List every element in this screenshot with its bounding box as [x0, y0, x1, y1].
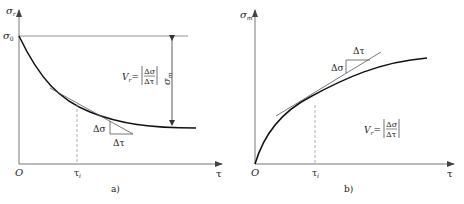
sigma0-label: σ0	[3, 30, 14, 42]
caption-b: b)	[344, 184, 353, 194]
delta-sigma-label-a: Δσ	[93, 124, 106, 134]
x-axis-label-a: τ	[216, 168, 222, 179]
svg-text:Δτ: Δτ	[144, 77, 155, 86]
diagram-canvas: σr σ0 O τi τ Δσ Δτ σm Vr= Δσ Δτ a) σm	[0, 0, 464, 204]
panel-a: σr σ0 O τi τ Δσ Δτ σm Vr= Δσ Δτ a)	[3, 5, 222, 194]
origin-label-a: O	[15, 167, 23, 178]
svg-text:Δτ: Δτ	[386, 130, 397, 139]
tangent-line-a	[50, 88, 133, 134]
delta-sigma-label-b: Δσ	[331, 63, 344, 73]
x-axis-label-b: τ	[447, 168, 453, 179]
rise-curve	[255, 58, 427, 164]
y-axis-label-a: σr	[6, 5, 17, 17]
velocity-formula-a: Vr= Δσ Δτ	[122, 66, 157, 86]
origin-label-b: O	[251, 167, 259, 178]
caption-a: a)	[111, 184, 120, 194]
delta-tau-label-a: Δτ	[113, 138, 124, 148]
velocity-formula-b: Vr= Δσ Δτ	[364, 119, 399, 139]
tau-i-label-b: τi	[312, 168, 319, 179]
svg-text:Δσ: Δσ	[144, 67, 156, 76]
sigma-m-label: σm	[161, 72, 173, 85]
y-axis-label-b: σm	[240, 9, 253, 21]
panel-b: σm O τi τ Δτ Δσ Vr= Δσ Δτ b)	[240, 9, 454, 194]
tangent-line-b	[276, 52, 381, 116]
svg-text:Vr=: Vr=	[364, 125, 381, 136]
svg-text:Δσ: Δσ	[386, 120, 398, 129]
delta-tau-label-b: Δτ	[353, 46, 364, 56]
tau-i-label-a: τi	[74, 168, 81, 179]
svg-text:Vr=: Vr=	[122, 72, 139, 83]
